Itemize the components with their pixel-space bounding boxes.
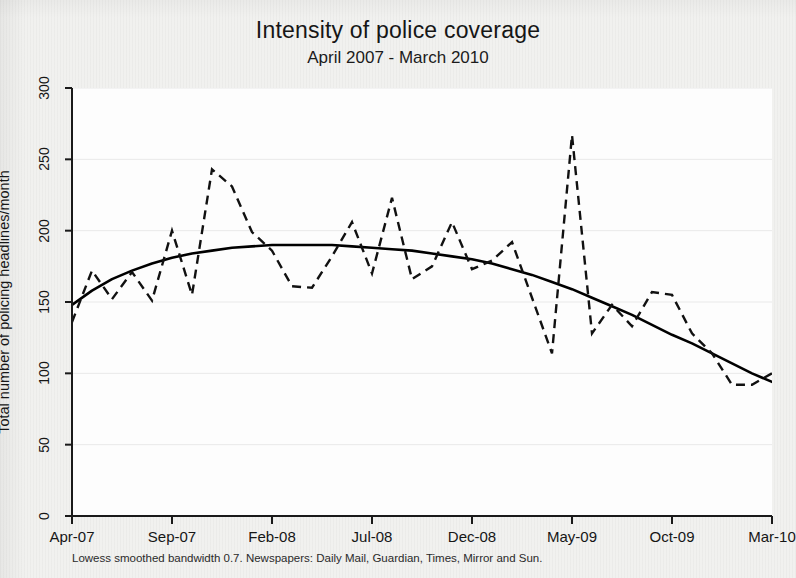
scanned-page: Intensity of police coverage April 2007 … [0,0,796,578]
x-tick-label: Feb-08 [227,528,317,545]
x-tick-label: Oct-09 [627,528,717,545]
y-tick-label: 250 [36,142,50,176]
x-tick-label: May-09 [527,528,617,545]
y-tick-label: 150 [36,285,50,319]
x-tick-label: Apr-07 [27,528,117,545]
y-tick-label: 200 [36,214,50,248]
y-tick-label: 300 [36,71,50,105]
y-tick-label: 100 [36,356,50,390]
lowess-trend-path [72,245,772,382]
chart-footnote: Lowess smoothed bandwidth 0.7. Newspaper… [72,552,542,564]
title-block: Intensity of police coverage April 2007 … [0,18,796,68]
chart-svg [72,88,772,516]
x-tick-label: Mar-10 [727,528,796,545]
page-title: Intensity of police coverage [0,18,796,43]
headlines-series-path [72,135,772,385]
page-subtitle: April 2007 - March 2010 [0,49,796,68]
x-tick-label: Dec-08 [427,528,517,545]
y-tick-label: 50 [36,428,50,462]
headlines-series-line [72,135,772,385]
y-axis-title: Total number of policing headlines/month [0,88,18,516]
gridlines [72,88,772,445]
plot-area [72,88,772,516]
x-tick-label: Jul-08 [327,528,417,545]
x-tick-label: Sep-07 [127,528,217,545]
lowess-trend-line [72,245,772,382]
